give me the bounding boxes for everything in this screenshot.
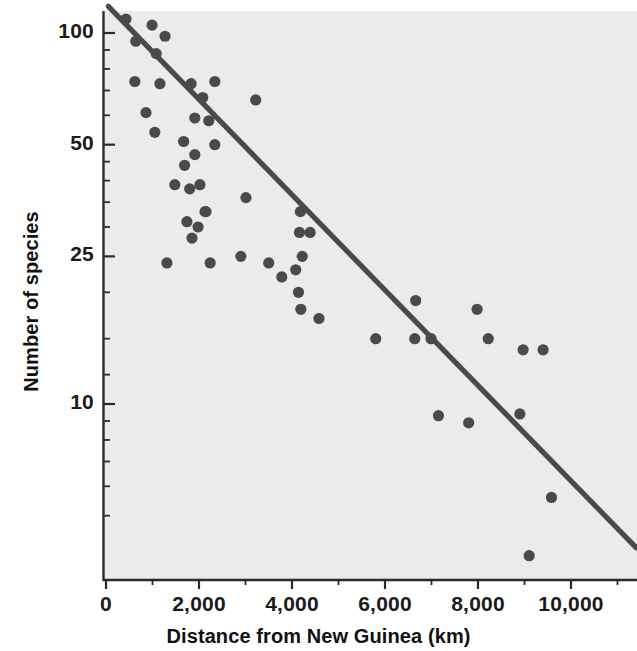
data-point [192, 221, 203, 232]
y-tick-label: 25 [34, 242, 94, 266]
data-point [178, 136, 189, 147]
data-point [305, 227, 316, 238]
x-tick-label: 6,000 [358, 592, 412, 616]
data-point [209, 76, 220, 87]
data-point [151, 48, 162, 59]
data-point [370, 333, 381, 344]
x-tick-label: 8,000 [451, 592, 505, 616]
data-point [235, 251, 246, 262]
data-point [483, 333, 494, 344]
data-point [129, 76, 140, 87]
data-point [205, 257, 216, 268]
data-point [189, 149, 200, 160]
data-point [433, 410, 444, 421]
data-point [293, 287, 304, 298]
data-point [546, 492, 557, 503]
x-tick-label: 2,000 [172, 592, 226, 616]
data-point [514, 408, 525, 419]
data-point [524, 550, 535, 561]
data-point [250, 94, 261, 105]
data-point [179, 160, 190, 171]
y-axis-title: Number of species [20, 152, 43, 452]
x-tick-label: 4,000 [265, 592, 319, 616]
data-point [169, 179, 180, 190]
data-point [313, 313, 324, 324]
data-point [203, 115, 214, 126]
data-point [240, 192, 251, 203]
x-tick-label: 10,000 [538, 592, 603, 616]
data-point [154, 78, 165, 89]
data-point [149, 127, 160, 138]
data-point [297, 251, 308, 262]
data-point [276, 271, 287, 282]
x-axis-title: Distance from New Guinea (km) [0, 625, 637, 648]
x-axis-ticks [106, 580, 618, 589]
data-point [409, 333, 420, 344]
data-point [518, 344, 529, 355]
data-point [290, 264, 301, 275]
data-point [130, 36, 141, 47]
y-tick-label: 10 [34, 390, 94, 414]
data-point [538, 344, 549, 355]
y-axis-ticks [104, 33, 115, 516]
data-point [186, 233, 197, 244]
data-point [189, 112, 200, 123]
data-point [200, 206, 211, 217]
figure-scatter-plot: the "island" effectof species onan islan… [0, 0, 637, 651]
data-point [185, 78, 196, 89]
y-tick-label: 50 [34, 131, 94, 155]
data-point [295, 206, 306, 217]
data-point [140, 107, 151, 118]
data-point [194, 179, 205, 190]
x-axis-tick-labels: 02,0004,0006,0008,00010,000 [0, 592, 637, 622]
data-point [184, 183, 195, 194]
data-point [161, 257, 172, 268]
data-point [159, 31, 170, 42]
y-tick-label: 100 [34, 19, 94, 43]
x-tick-label: 0 [100, 592, 112, 616]
axis-lines [103, 11, 637, 581]
data-point [410, 295, 421, 306]
data-point [146, 20, 157, 31]
data-point [120, 14, 131, 25]
data-point [295, 304, 306, 315]
data-point [463, 417, 474, 428]
plot-canvas [0, 0, 637, 651]
data-point [425, 333, 436, 344]
data-point [181, 216, 192, 227]
data-point [209, 139, 220, 150]
data-points [120, 14, 557, 562]
data-point [197, 92, 208, 103]
data-point [471, 304, 482, 315]
data-point [263, 257, 274, 268]
data-point [294, 227, 305, 238]
